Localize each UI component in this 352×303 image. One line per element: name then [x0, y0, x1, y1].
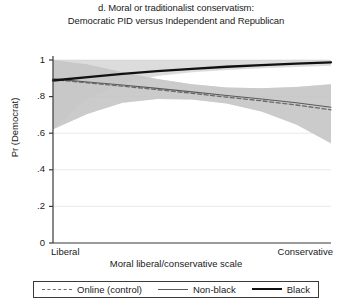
thick-line-swatch	[252, 287, 282, 293]
x-axis-label: Moral liberal/conservative scale	[0, 258, 352, 269]
chart-figure: d. Moral or traditionalist conservatism:…	[0, 0, 352, 303]
y-tick-label: .6	[23, 127, 45, 138]
legend-item-online-control[interactable]: Online (control)	[42, 284, 142, 295]
thin-line-swatch	[158, 287, 188, 293]
chart-legend: Online (control) Non-black Black	[33, 281, 319, 298]
y-tick-label: 1	[23, 54, 45, 65]
dashed-line-swatch	[42, 287, 72, 293]
x-tick-label: Conservative	[0, 246, 333, 257]
y-tick-label: .8	[23, 90, 45, 101]
legend-label: Online (control)	[77, 284, 142, 295]
legend-item-black[interactable]: Black	[252, 284, 310, 295]
legend-item-non-black[interactable]: Non-black	[158, 284, 236, 295]
y-tick-label: .4	[23, 163, 45, 174]
legend-label: Non-black	[193, 284, 236, 295]
legend-label: Black	[287, 284, 310, 295]
y-axis-label: Pr (Democrat)	[9, 78, 20, 178]
y-tick-label: .2	[23, 200, 45, 211]
